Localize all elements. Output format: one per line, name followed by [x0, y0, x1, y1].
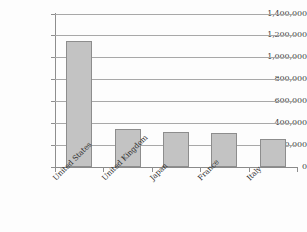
bar [163, 132, 189, 166]
bar-chart: 0200,000400,000600,000800,0001,000,0001,… [0, 0, 307, 232]
gridline [55, 35, 297, 36]
x-axis-tick-mark [297, 167, 298, 172]
gridline [55, 14, 297, 15]
bar [260, 139, 286, 166]
